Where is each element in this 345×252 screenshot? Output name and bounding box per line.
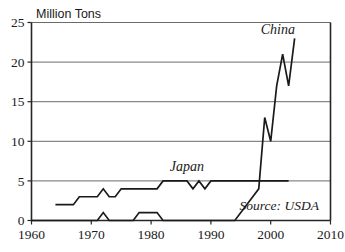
data-series [32, 38, 295, 220]
series-annotation-japan: Japan [170, 159, 204, 174]
x-tick-label-2000: 2000 [257, 227, 284, 242]
source-annotation: Source: USDA [240, 198, 320, 213]
x-tick-label-1980: 1980 [138, 227, 165, 242]
line-chart: 0510152025 196019701980199020002010 Mill… [0, 0, 345, 252]
y-tick-labels: 0510152025 [11, 15, 25, 228]
x-tick-label-1960: 1960 [18, 227, 45, 242]
chart-container: 0510152025 196019701980199020002010 Mill… [0, 0, 345, 252]
annotations: ChinaJapanSource: USDA [170, 22, 320, 213]
x-tick-label-1970: 1970 [78, 227, 105, 242]
series-line-china [32, 38, 295, 220]
x-tick-label-2010: 2010 [317, 227, 344, 242]
grid-lines [32, 23, 331, 181]
y-tick-label-20: 20 [11, 55, 25, 70]
x-tick-label-1990: 1990 [197, 227, 224, 242]
y-tick-label-5: 5 [18, 174, 25, 189]
chart-axis-title: Million Tons [36, 7, 101, 21]
y-tick-label-10: 10 [11, 134, 25, 149]
series-annotation-china: China [261, 22, 295, 37]
y-tick-label-25: 25 [11, 15, 25, 30]
x-tick-labels: 196019701980199020002010 [18, 227, 344, 242]
y-tick-label-15: 15 [11, 94, 25, 109]
